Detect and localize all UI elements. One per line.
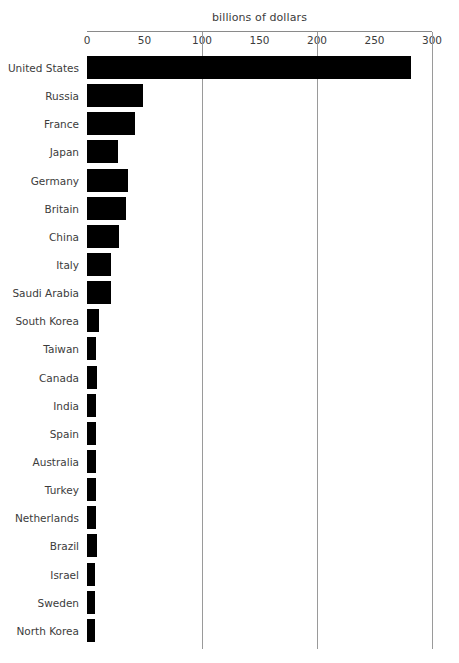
category-label: Saudi Arabia: [0, 279, 79, 307]
plot-area: 050100150200250300: [87, 31, 432, 649]
category-label: Britain: [0, 195, 79, 223]
bar-row: [87, 561, 432, 589]
bar: [87, 394, 96, 417]
category-label: Russia: [0, 82, 79, 110]
bar: [87, 225, 119, 248]
bar: [87, 197, 126, 220]
category-label: Japan: [0, 138, 79, 166]
bar: [87, 591, 95, 614]
bar-row: [87, 167, 432, 195]
bar: [87, 422, 96, 445]
category-label: United States: [0, 54, 79, 82]
category-label: Italy: [0, 251, 79, 279]
bar-row: [87, 195, 432, 223]
category-label: Taiwan: [0, 335, 79, 363]
bar-row: [87, 617, 432, 645]
bar-row: [87, 392, 432, 420]
bar: [87, 56, 411, 79]
bar: [87, 506, 96, 529]
bar-row: [87, 504, 432, 532]
category-label: Canada: [0, 364, 79, 392]
bar: [87, 281, 111, 304]
bar-row: [87, 307, 432, 335]
bar-row: [87, 138, 432, 166]
bar: [87, 169, 128, 192]
y-axis-category-labels: United StatesRussiaFranceJapanGermanyBri…: [0, 54, 79, 649]
bar: [87, 534, 97, 557]
category-label: Turkey: [0, 476, 79, 504]
bar: [87, 563, 95, 586]
bar: [87, 140, 118, 163]
category-label: Netherlands: [0, 504, 79, 532]
x-tick-label: 50: [138, 34, 151, 46]
chart-title: billions of dollars: [87, 11, 432, 24]
bar: [87, 309, 99, 332]
category-label: South Korea: [0, 307, 79, 335]
bar: [87, 450, 96, 473]
category-label: Sweden: [0, 589, 79, 617]
bar-row: [87, 589, 432, 617]
category-label: North Korea: [0, 617, 79, 645]
bar-row: [87, 223, 432, 251]
bar-row: [87, 420, 432, 448]
bar: [87, 478, 96, 501]
category-label: Spain: [0, 420, 79, 448]
bar-row: [87, 251, 432, 279]
bar-row: [87, 54, 432, 82]
bar-row: [87, 448, 432, 476]
category-label: France: [0, 110, 79, 138]
x-tick-label: 150: [249, 34, 269, 46]
bar: [87, 337, 96, 360]
gridline: [432, 32, 433, 649]
bar-row: [87, 279, 432, 307]
x-axis-line: [87, 31, 432, 32]
bar-row: [87, 532, 432, 560]
x-tick-label: 250: [364, 34, 384, 46]
bar: [87, 253, 111, 276]
x-tick-label: 0: [84, 34, 91, 46]
bar-row: [87, 335, 432, 363]
bar-chart: billions of dollars 050100150200250300 U…: [0, 0, 459, 663]
bar-row: [87, 364, 432, 392]
category-label: China: [0, 223, 79, 251]
bar: [87, 366, 97, 389]
category-label: Brazil: [0, 532, 79, 560]
bar: [87, 84, 143, 107]
category-label: India: [0, 392, 79, 420]
bar-row: [87, 110, 432, 138]
bar-row: [87, 476, 432, 504]
bar: [87, 112, 135, 135]
bar: [87, 619, 95, 642]
bar-series: [87, 54, 432, 649]
category-label: Australia: [0, 448, 79, 476]
category-label: Germany: [0, 167, 79, 195]
bar-row: [87, 82, 432, 110]
category-label: Israel: [0, 561, 79, 589]
